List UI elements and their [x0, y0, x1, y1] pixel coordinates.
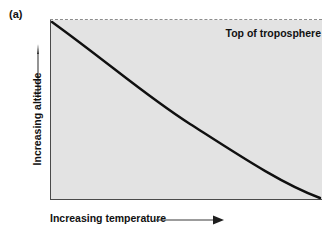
panel-label: (a)	[9, 8, 22, 21]
x-axis-label: Increasing temperature	[50, 212, 166, 224]
curve-path	[52, 22, 320, 198]
figure-panel-a: (a) Top of troposphere Increasing altitu…	[0, 0, 335, 235]
temperature-profile-curve	[50, 20, 322, 200]
y-axis-label: Increasing altitude	[31, 58, 43, 180]
y-axis-annotation-group: Increasing altitude	[23, 44, 53, 196]
right-arrow-icon	[156, 214, 224, 226]
x-axis-annotation-group: Increasing temperature	[50, 210, 300, 230]
